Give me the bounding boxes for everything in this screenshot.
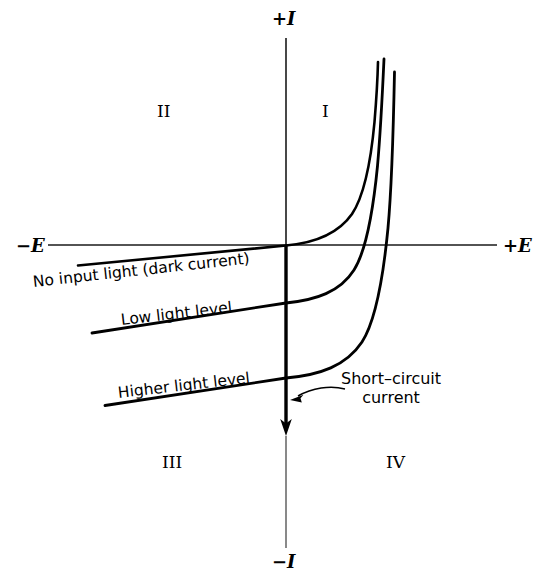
figure-canvas: [0, 0, 541, 582]
quadrant-label-four: IV: [386, 452, 405, 472]
quadrant-label-two: II: [157, 101, 170, 121]
curve-dark-current-forward: [286, 62, 378, 246]
curve-low-light-forward: [286, 59, 384, 303]
axis-label-negative-voltage: −E: [16, 235, 45, 256]
short-circuit-current-line-1: Short–circuit: [341, 370, 441, 389]
axis-label-positive-voltage: +E: [503, 235, 532, 256]
short-circuit-current-annotation: Short–circuit current: [341, 370, 441, 408]
quadrant-label-one: I: [322, 101, 329, 121]
axis-label-negative-current: −I: [272, 551, 296, 572]
short-circuit-current-line-2: current: [341, 389, 441, 408]
axis-label-positive-current: +I: [272, 8, 296, 29]
short-circuit-callout-arrowhead: [290, 395, 304, 403]
iv-characteristic-figure: −E +E +I −I II I III IV No input light (…: [0, 0, 541, 582]
quadrant-label-three: III: [162, 452, 182, 472]
short-circuit-callout-leader: [298, 387, 345, 396]
